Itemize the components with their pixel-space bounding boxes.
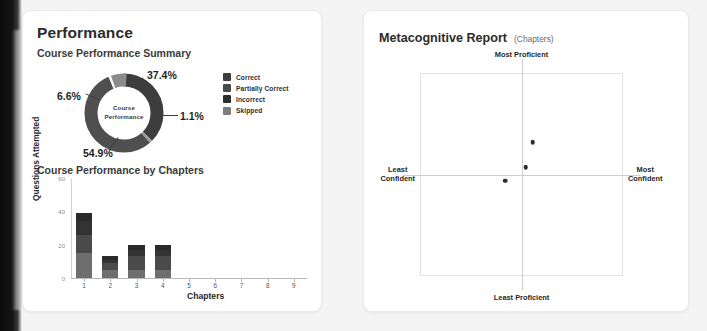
bar-segment-partially-correct	[155, 256, 171, 269]
quadrant-label-least-proficient: Least Proficient	[494, 293, 549, 303]
legend-label: Skipped	[236, 107, 262, 114]
quadrant-label-most-confident: Most Confident	[628, 165, 662, 184]
donut-value-correct: 37.4%	[147, 69, 177, 81]
bar-segment-incorrect	[155, 250, 171, 257]
bar-chart-x-tick: 8	[266, 282, 270, 289]
quadrant-label-most-proficient: Most Proficient	[495, 50, 548, 60]
legend-item[interactable]: Skipped	[223, 107, 289, 115]
legend-item[interactable]: Incorrect	[223, 95, 289, 103]
bar-segment-correct	[155, 270, 171, 278]
legend-label: Incorrect	[236, 96, 265, 103]
bar-segment-incorrect	[128, 250, 144, 257]
donut-value-partially-correct: 6.6%	[57, 90, 81, 102]
legend-label: Partially Correct	[236, 85, 289, 92]
bar-chart-x-tick: 9	[292, 282, 296, 289]
legend-swatch-skipped	[223, 107, 231, 115]
legend-item[interactable]: Correct	[223, 73, 289, 81]
bar-chart[interactable]: Questions Attempted 0204060 123456789 Ch…	[37, 179, 309, 304]
bar-segment-correct	[128, 270, 144, 278]
leader-line-incorrect	[160, 115, 178, 116]
bar-chart-x-tick: 3	[135, 282, 139, 289]
bar-chart-x-tick: 5	[187, 282, 191, 289]
bar-chart-y-tick: 20	[51, 243, 65, 249]
bar-segment-partially-correct	[128, 256, 144, 269]
bar-chart-x-tick: 2	[109, 282, 113, 289]
bar-segment-correct	[76, 253, 92, 278]
bar-segment-partially-correct	[76, 235, 92, 253]
metacognitive-report-subtitle: (Chapters)	[514, 34, 554, 44]
legend-swatch-correct	[223, 73, 231, 81]
bar-chart-x-tick: 6	[213, 282, 217, 289]
bar-chart-x-tick: 7	[240, 282, 244, 289]
bar-chart-x-tick: 4	[161, 282, 165, 289]
donut-center-line1: Course	[113, 104, 135, 113]
donut-legend: CorrectPartially CorrectIncorrectSkipped	[223, 73, 289, 118]
bar-segment-skipped	[76, 213, 92, 221]
legend-swatch-partially-correct	[223, 84, 231, 92]
legend-label: Correct	[236, 74, 260, 81]
bar-chapter-2[interactable]	[102, 256, 118, 278]
bar-chart-plot-area: 123456789	[71, 179, 307, 279]
bar-chart-y-tick: 0	[51, 276, 65, 282]
donut-center-line2: Performance	[105, 113, 144, 122]
bar-segment-partially-correct	[102, 263, 118, 270]
bar-chart-y-tick: 60	[51, 176, 65, 182]
donut-value-incorrect: 1.1%	[180, 110, 204, 122]
course-performance-summary-title: Course Performance Summary	[37, 47, 191, 59]
metacognitive-report-header: Metacognitive Report (Chapters)	[379, 31, 554, 45]
quadrant-horizontal-axis	[403, 175, 640, 176]
performance-card: Performance Course Performance Summary C…	[22, 10, 322, 312]
course-performance-by-chapters-title: Course Performance by Chapters	[37, 164, 204, 176]
bar-chapter-1[interactable]	[76, 213, 92, 278]
bar-chapter-3[interactable]	[128, 245, 144, 278]
donut-value-skipped: 54.9%	[83, 147, 113, 159]
bar-segment-correct	[102, 270, 118, 278]
bar-chart-x-axis-label: Chapters	[187, 291, 224, 301]
bar-chapter-4[interactable]	[155, 245, 171, 278]
scatter-point[interactable]	[503, 178, 508, 183]
legend-item[interactable]: Partially Correct	[223, 84, 289, 92]
legend-swatch-incorrect	[223, 95, 231, 103]
quadrant-scatter-chart[interactable]: Most Proficient Least Proficient Least C…	[420, 73, 623, 276]
quadrant-label-least-confident: Least Confident	[381, 165, 415, 184]
metacognitive-report-card: Metacognitive Report (Chapters) Most Pro…	[363, 10, 689, 312]
bar-chart-y-axis-label: Questions Attempted	[31, 117, 41, 201]
scan-edge-streak	[12, 30, 22, 310]
bar-segment-incorrect	[76, 221, 92, 234]
screenshot-root: Performance Course Performance Summary C…	[0, 0, 707, 331]
bar-chart-x-tick: 1	[82, 282, 86, 289]
page-title: Performance	[37, 24, 133, 42]
metacognitive-report-title: Metacognitive Report	[379, 31, 507, 45]
scatter-point[interactable]	[523, 165, 528, 170]
scatter-point[interactable]	[530, 140, 535, 145]
bar-chart-y-tick: 40	[51, 209, 65, 215]
bar-chart-y-ticks: 0204060	[51, 179, 65, 279]
